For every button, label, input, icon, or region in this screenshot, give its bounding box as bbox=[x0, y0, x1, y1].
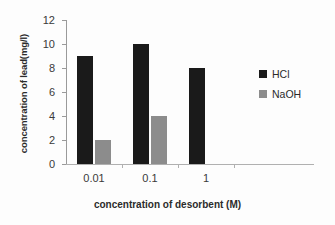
y-axis-tick-label: 6 bbox=[49, 86, 55, 98]
bar-chart: concentration of lead(mg/l) 024681012 0.… bbox=[0, 0, 335, 225]
y-axis-tick-label: 2 bbox=[49, 134, 55, 146]
y-axis-tick: 0 bbox=[62, 164, 66, 165]
legend-swatch-icon bbox=[259, 70, 267, 78]
y-axis-tick: 2 bbox=[62, 140, 66, 141]
bar-hcl-0.1 bbox=[133, 44, 149, 164]
y-axis-tick: 6 bbox=[62, 92, 66, 93]
x-axis-title: concentration of desorbent (M) bbox=[0, 199, 335, 210]
bar-naoh-0.01 bbox=[95, 140, 111, 164]
x-axis-tick bbox=[234, 164, 235, 168]
legend-label: NaOH bbox=[272, 88, 301, 100]
y-axis-tick: 4 bbox=[62, 116, 66, 117]
y-axis-title: concentration of lead(mg/l) bbox=[18, 19, 29, 169]
y-axis-line bbox=[66, 20, 67, 164]
x-axis-tick bbox=[122, 164, 123, 168]
chart-legend: HClNaOH bbox=[259, 68, 301, 108]
y-axis-tick-label: 0 bbox=[49, 158, 55, 170]
y-axis-tick: 8 bbox=[62, 68, 66, 69]
x-axis-tick-label: 1 bbox=[203, 172, 209, 184]
x-axis-tick bbox=[178, 164, 179, 168]
bar-hcl-0.01 bbox=[77, 56, 93, 164]
legend-label: HCl bbox=[272, 68, 290, 80]
y-axis-tick-label: 12 bbox=[43, 14, 55, 26]
y-axis-tick-label: 4 bbox=[49, 110, 55, 122]
y-axis-tick-label: 10 bbox=[43, 38, 55, 50]
legend-item-hcl: HCl bbox=[259, 68, 301, 80]
plot-area: 024681012 bbox=[66, 20, 234, 164]
y-axis-tick: 10 bbox=[62, 44, 66, 45]
x-axis-line bbox=[66, 164, 314, 165]
legend-swatch-icon bbox=[259, 90, 267, 98]
legend-item-naoh: NaOH bbox=[259, 88, 301, 100]
y-axis-tick-label: 8 bbox=[49, 62, 55, 74]
x-axis-tick-label: 0.01 bbox=[83, 172, 104, 184]
x-axis-tick-label: 0.1 bbox=[142, 172, 157, 184]
bar-hcl-1 bbox=[189, 68, 205, 164]
y-axis-tick: 12 bbox=[62, 20, 66, 21]
bar-naoh-0.1 bbox=[151, 116, 167, 164]
